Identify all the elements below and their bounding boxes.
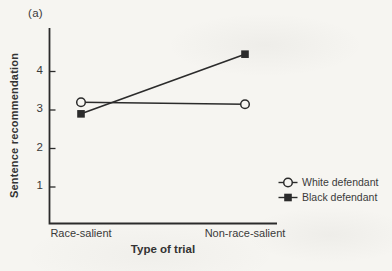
figure-panel-a: (a) Sentence recommendation Type of tria… (0, 0, 392, 271)
y-tick-label-2: 2 (20, 141, 43, 153)
legend-label: Black defendant (302, 191, 377, 203)
y-tick-label-3: 3 (20, 102, 43, 114)
legend: White defendantBlack defendant (278, 176, 378, 203)
open-circle-marker (241, 100, 250, 109)
legend-item: White defendant (278, 176, 378, 188)
y-tick-label-4: 4 (20, 64, 43, 76)
x-category-label: Race-salient (16, 227, 146, 239)
filled-square-marker (284, 193, 292, 201)
series-line (81, 102, 245, 104)
legend-item: Black defendant (278, 191, 378, 203)
y-tick-label-1: 1 (20, 179, 43, 191)
x-axis-title: Type of trial (103, 243, 223, 255)
legend-marker-square-filled (278, 192, 298, 203)
series-line (81, 54, 245, 114)
x-category-label: Non-race-salient (180, 227, 310, 239)
filled-square-marker (241, 50, 249, 58)
open-circle-marker (284, 178, 293, 187)
open-circle-marker (77, 98, 86, 107)
legend-marker-circle-open (278, 177, 298, 188)
filled-square-marker (77, 110, 85, 118)
legend-label: White defendant (302, 176, 378, 188)
